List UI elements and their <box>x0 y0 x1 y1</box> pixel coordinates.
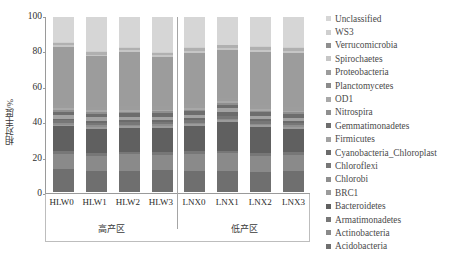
legend-swatch-icon <box>326 56 331 61</box>
bar-segment <box>217 171 238 192</box>
bar-segment <box>119 154 140 171</box>
legend-item[interactable]: Spirochaetes <box>326 52 474 65</box>
x-axis-label-lnx0: LNX0 <box>178 197 211 207</box>
bar-segment <box>53 154 74 170</box>
right-frame-line <box>309 194 310 242</box>
legend-label: Cyanobacteria_Chloroplast <box>335 148 437 158</box>
x-axis-label-hlw0: HLW0 <box>45 197 78 207</box>
bar-hlw2[interactable] <box>119 17 140 192</box>
legend-item[interactable]: OD1 <box>326 92 474 105</box>
legend-swatch-icon <box>326 97 331 102</box>
legend-label: Gemmatimonadetes <box>335 121 409 131</box>
y-axis-tick-mark <box>43 17 46 18</box>
legend-swatch-icon <box>326 137 331 142</box>
bar-segment <box>283 171 304 192</box>
bar-lnx3[interactable] <box>283 17 304 192</box>
legend-item[interactable]: BRC1 <box>326 186 474 199</box>
legend-item[interactable]: Planctomycetes <box>326 79 474 92</box>
bar-segment <box>184 17 205 47</box>
x-axis-label-hlw2: HLW2 <box>111 197 144 207</box>
bar-segment <box>86 171 107 192</box>
bar-segment <box>152 128 173 152</box>
group-label-low-yield: 低产区 <box>178 222 310 235</box>
legend-item[interactable]: Unclassified <box>326 12 474 25</box>
bar-lnx1[interactable] <box>217 17 238 192</box>
bar-segment <box>119 52 140 106</box>
group-labels: 高产区 低产区 <box>45 222 310 242</box>
legend-swatch-icon <box>326 244 331 249</box>
legend-item[interactable]: Chloroflexi <box>326 159 474 172</box>
legend-item[interactable]: Gemmatimonadetes <box>326 119 474 132</box>
bar-hlw1[interactable] <box>86 17 107 192</box>
left-frame-line <box>45 194 46 242</box>
bar-segment <box>283 129 304 152</box>
legend-swatch-icon <box>326 70 331 75</box>
legend-swatch-icon <box>326 123 331 128</box>
bar-segment <box>184 154 205 171</box>
bar-segment <box>250 172 271 192</box>
legend-item[interactable]: Cyanobacteria_Chloroplast <box>326 146 474 159</box>
y-axis-tick-label: 100 <box>16 12 42 21</box>
x-axis-label-lnx1: LNX1 <box>211 197 244 207</box>
legend-item[interactable]: Firmicutes <box>326 133 474 146</box>
y-axis-tick-label: 40 <box>16 118 42 127</box>
legend-item[interactable]: Bacteroidetes <box>326 199 474 212</box>
bar-segment <box>86 17 107 51</box>
y-axis-tick-mark <box>43 159 46 160</box>
bar-segment <box>283 17 304 47</box>
legend-label: Chlorobi <box>335 174 368 184</box>
legend-swatch-icon <box>326 163 331 168</box>
bar-segment <box>152 57 173 106</box>
legend-item[interactable]: Chlorobi <box>326 173 474 186</box>
chart-legend: UnclassifiedWS3VerrucomicrobiaSpirochaet… <box>326 12 474 253</box>
x-axis-label-hlw1: HLW1 <box>78 197 111 207</box>
bar-segment <box>250 127 271 153</box>
legend-swatch-icon <box>326 43 331 48</box>
bar-segment <box>86 129 107 154</box>
y-axis-tick-mark <box>43 52 46 53</box>
legend-label: Planctomycetes <box>335 81 393 91</box>
bar-segment <box>53 17 74 42</box>
bar-segment <box>217 17 238 45</box>
legend-label: OD1 <box>335 94 353 104</box>
legend-label: BRC1 <box>335 188 358 198</box>
legend-item[interactable]: WS3 <box>326 25 474 38</box>
y-axis-tick-mark <box>43 88 46 89</box>
legend-item[interactable]: Verrucomicrobia <box>326 39 474 52</box>
legend-swatch-icon <box>326 177 331 182</box>
bar-segment <box>184 126 205 151</box>
bars-container <box>47 17 310 192</box>
legend-item[interactable]: Proteobacteria <box>326 66 474 79</box>
bar-segment <box>250 52 271 106</box>
legend-label: Bacteroidetes <box>335 201 386 211</box>
legend-label: Actinobacteria <box>335 228 390 238</box>
legend-item[interactable]: Armatimonadetes <box>326 213 474 226</box>
legend-swatch-icon <box>326 83 331 88</box>
bar-segment <box>250 156 271 172</box>
legend-label: Armatimonadetes <box>335 215 401 225</box>
bar-segment <box>119 17 140 47</box>
bar-segment <box>184 53 205 105</box>
bar-segment <box>217 122 238 150</box>
bar-lnx2[interactable] <box>250 17 271 192</box>
x-axis-label-lnx2: LNX2 <box>244 197 277 207</box>
bar-segment <box>53 169 74 192</box>
legend-swatch-icon <box>326 230 331 235</box>
bar-segment <box>283 53 304 108</box>
legend-label: Spirochaetes <box>335 54 383 64</box>
bar-segment <box>250 17 271 46</box>
legend-swatch-icon <box>326 204 331 209</box>
legend-swatch-icon <box>326 30 331 35</box>
x-axis-label-lnx3: LNX3 <box>277 197 310 207</box>
legend-swatch-icon <box>326 150 331 155</box>
group-label-high-yield: 高产区 <box>45 222 177 235</box>
legend-item[interactable]: Nitrospira <box>326 106 474 119</box>
bar-lnx0[interactable] <box>184 17 205 192</box>
legend-item[interactable]: Acidobacteria <box>326 240 474 253</box>
legend-item[interactable]: Actinobacteria <box>326 226 474 239</box>
bar-hlw3[interactable] <box>152 17 173 192</box>
legend-label: Nitrospira <box>335 107 373 117</box>
legend-label: Chloroflexi <box>335 161 378 171</box>
bar-hlw0[interactable] <box>53 17 74 192</box>
bar-segment <box>217 153 238 171</box>
